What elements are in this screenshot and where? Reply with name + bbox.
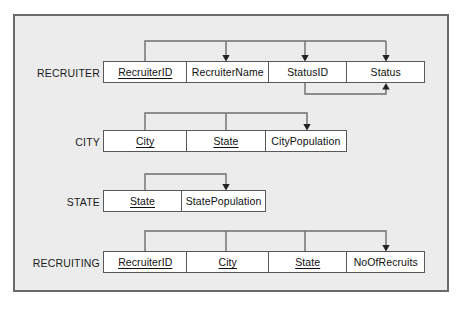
attribute-recruiter-statusid[interactable]: StatusID xyxy=(269,62,348,82)
attribute-label: City xyxy=(136,136,154,147)
attribute-recruiting-state[interactable]: State xyxy=(269,252,348,272)
attribute-recruiter-recruiterid[interactable]: RecruiterID xyxy=(104,62,187,82)
attribute-city-citypopulation[interactable]: CityPopulation xyxy=(266,131,346,151)
attribute-label: StatePopulation xyxy=(186,196,262,207)
attribute-label: StatusID xyxy=(287,67,328,78)
attribute-label: RecruiterName xyxy=(192,67,264,78)
relation-label-city: CITY xyxy=(10,137,100,148)
relation-label-recruiting: RECRUITING xyxy=(10,258,100,269)
attribute-state-statepopulation[interactable]: StatePopulation xyxy=(182,191,265,211)
relation-label-recruiter: RECRUITER xyxy=(10,68,100,79)
relation-state: State StatePopulation xyxy=(103,190,266,212)
relation-recruiting: RecruiterID City State NoOfRecruits xyxy=(103,251,425,273)
attribute-label: NoOfRecruits xyxy=(354,257,418,268)
attribute-city-city[interactable]: City xyxy=(104,131,187,151)
attribute-state-state[interactable]: State xyxy=(104,191,182,211)
attribute-label: State xyxy=(213,136,238,147)
attribute-label: RecruiterID xyxy=(118,257,172,268)
attribute-recruiting-recruiterid[interactable]: RecruiterID xyxy=(104,252,187,272)
relation-label-state: STATE xyxy=(10,197,100,208)
attribute-label: State xyxy=(130,196,155,207)
attribute-recruiting-noofrecruits[interactable]: NoOfRecruits xyxy=(347,252,424,272)
attribute-recruiter-recruitername[interactable]: RecruiterName xyxy=(187,62,268,82)
attribute-label: City xyxy=(218,257,236,268)
attribute-label: RecruiterID xyxy=(118,67,172,78)
attribute-recruiter-status[interactable]: Status xyxy=(347,62,424,82)
diagram-canvas: RECRUITER CITY STATE RECRUITING Recruite… xyxy=(0,0,463,310)
attribute-label: State xyxy=(295,257,320,268)
relation-city: City State CityPopulation xyxy=(103,130,347,152)
attribute-recruiting-city[interactable]: City xyxy=(187,252,268,272)
attribute-label: Status xyxy=(371,67,401,78)
attribute-label: CityPopulation xyxy=(271,136,340,147)
relation-recruiter: RecruiterID RecruiterName StatusID Statu… xyxy=(103,61,425,83)
attribute-city-state[interactable]: State xyxy=(187,131,265,151)
